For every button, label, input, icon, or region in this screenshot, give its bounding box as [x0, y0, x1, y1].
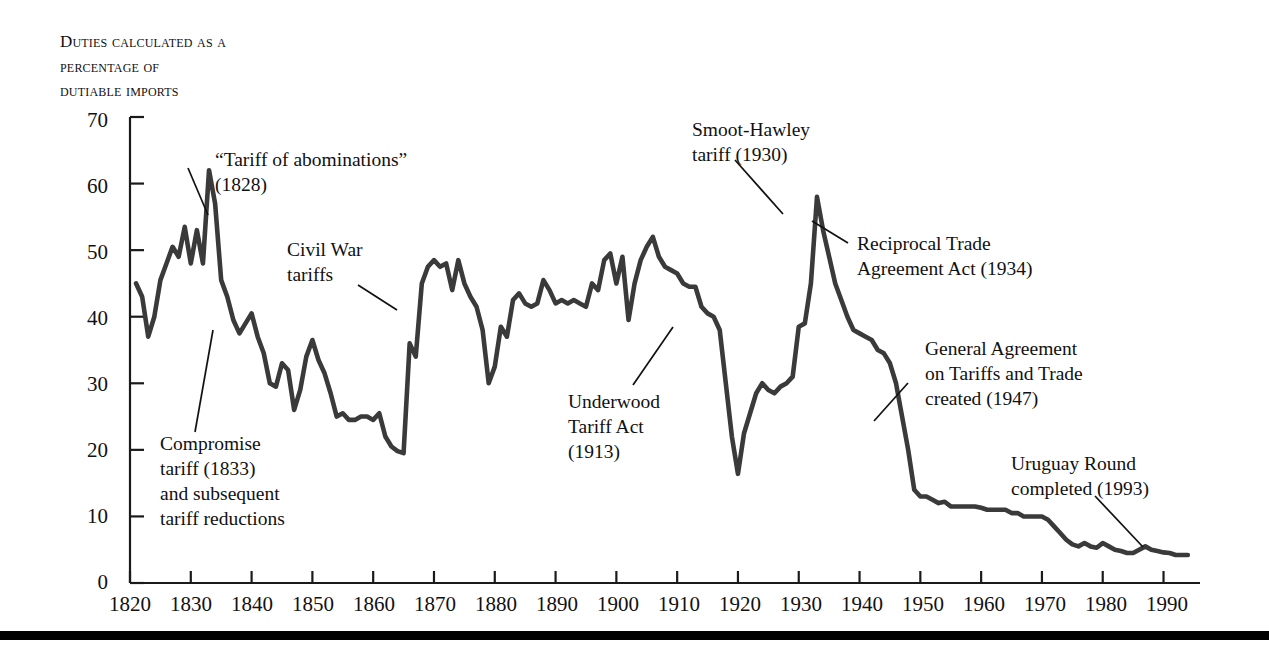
plot-area	[0, 0, 1269, 660]
annotation-general-agreement-tariffs-trade: General Agreement on Tariffs and Trade c…	[925, 337, 1083, 412]
annotation-line: tariff reductions	[160, 507, 285, 532]
leader-smoot-hawley	[735, 160, 783, 214]
annotation-line: tariffs	[287, 263, 363, 288]
leader-compromise-tariff	[195, 330, 213, 432]
annotation-line: Smoot-Hawley	[692, 118, 810, 143]
tariff-history-figure: Duties calculated as a percentage of dut…	[0, 0, 1269, 660]
annotation-line: Reciprocal Trade	[857, 232, 1032, 257]
annotation-civil-war-tariffs: Civil War tariffs	[287, 238, 363, 288]
annotation-line: tariff (1930)	[692, 143, 810, 168]
bottom-rule	[0, 631, 1269, 640]
annotation-line: on Tariffs and Trade	[925, 362, 1083, 387]
annotation-line: tariff (1833)	[160, 457, 285, 482]
annotation-line: Civil War	[287, 238, 363, 263]
y-axis-ticks	[130, 117, 144, 583]
annotation-line: and subsequent	[160, 482, 285, 507]
annotation-line: Uruguay Round	[1011, 452, 1149, 477]
annotation-compromise-tariff: Compromise tariff (1833) and subsequent …	[160, 432, 285, 532]
annotation-line: (1828)	[215, 173, 407, 198]
leader-reciprocal	[812, 221, 848, 243]
annotation-line: General Agreement	[925, 337, 1083, 362]
annotation-uruguay-round: Uruguay Round completed (1993)	[1011, 452, 1149, 502]
annotation-line: (1913)	[568, 440, 660, 465]
annotation-underwood-tariff-act: Underwood Tariff Act (1913)	[568, 390, 660, 465]
annotation-line: Underwood	[568, 390, 660, 415]
annotation-line: completed (1993)	[1011, 477, 1149, 502]
leader-uruguay	[1095, 496, 1143, 547]
annotation-line: created (1947)	[925, 387, 1083, 412]
annotation-line: Compromise	[160, 432, 285, 457]
annotation-line: Agreement Act (1934)	[857, 257, 1032, 282]
leader-tariff-of-abominations	[188, 168, 208, 215]
annotation-line: “Tariff of abominations”	[215, 148, 407, 173]
annotation-reciprocal-trade-agreement-act: Reciprocal Trade Agreement Act (1934)	[857, 232, 1032, 282]
x-axis-ticks	[130, 571, 1164, 583]
annotation-tariff-of-abominations: “Tariff of abominations” (1828)	[215, 148, 407, 198]
annotation-smoot-hawley-tariff: Smoot-Hawley tariff (1930)	[692, 118, 810, 168]
annotation-line: Tariff Act	[568, 415, 660, 440]
leader-underwood	[633, 327, 673, 385]
leader-civil-war	[358, 285, 397, 310]
